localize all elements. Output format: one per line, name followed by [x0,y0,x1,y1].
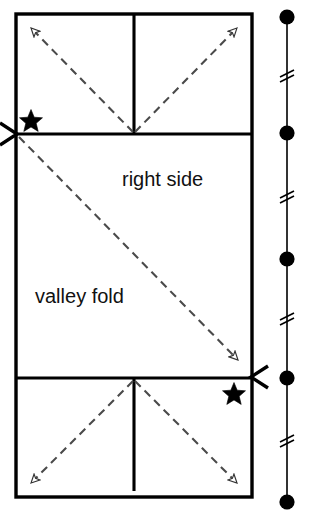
layer-dot-2 [279,125,294,140]
origami-fold-figure: right side valley fold [0,0,310,529]
label-right-side: right side [122,168,203,190]
label-valley-fold: valley fold [35,285,124,307]
layer-dot-3 [279,251,294,266]
layer-dot-5 [279,494,294,509]
layer-dot-4 [279,370,294,385]
layer-dot-1 [279,9,294,24]
edge-on-side-view [279,9,294,509]
diagram-canvas: right side valley fold [0,0,310,529]
